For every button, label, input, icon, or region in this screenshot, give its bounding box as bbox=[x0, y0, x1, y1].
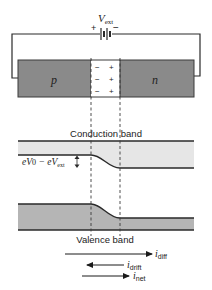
semiconductor-bar: p n − − − + + + bbox=[18, 60, 194, 97]
pos-charge: + bbox=[109, 75, 114, 84]
neg-charge: − bbox=[95, 75, 100, 84]
barrier-height-label: eV0 − eVext bbox=[22, 157, 65, 168]
n-label: n bbox=[152, 73, 158, 87]
conduction-band-label: Conduction band bbox=[70, 128, 142, 139]
pn-junction-diagram: + − Vext p n − − − + + + Conduction band… bbox=[0, 0, 212, 290]
pos-charge: + bbox=[109, 87, 114, 96]
battery-icon bbox=[101, 28, 110, 40]
i-net-label: inet bbox=[133, 270, 146, 282]
i-diff-label: idiff bbox=[155, 248, 167, 260]
valence-band-label: Valence band bbox=[76, 234, 133, 245]
vext-label: Vext bbox=[98, 12, 113, 26]
neg-charge: − bbox=[95, 63, 100, 72]
valence-band-fill bbox=[18, 204, 194, 230]
pos-charge: + bbox=[109, 63, 114, 72]
valence-band: Valence band bbox=[18, 204, 194, 245]
barrier-height-annotation: eV0 − eVext bbox=[22, 156, 80, 169]
p-label: p bbox=[50, 73, 57, 87]
current-arrows: idiff idrift inet bbox=[65, 248, 167, 282]
battery-plus-sign: + bbox=[91, 23, 96, 33]
neg-charge: − bbox=[95, 87, 100, 96]
battery-minus-sign: − bbox=[113, 22, 119, 33]
